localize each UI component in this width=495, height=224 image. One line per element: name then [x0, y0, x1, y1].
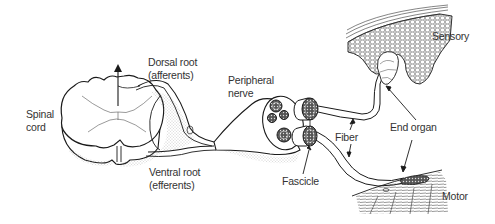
label-fascicle: Fascicle: [282, 175, 319, 188]
peripheral-nerve: [214, 92, 308, 163]
label-fiber: Fiber: [335, 131, 358, 144]
fiber-arrow-down-icon: [347, 152, 351, 157]
label-line: Spinal: [26, 108, 54, 121]
end-organ-motor-arrow-icon: [401, 166, 406, 172]
sensory-skin: [346, 5, 452, 84]
motor-muscle: [352, 170, 448, 214]
label-line: (efferents): [149, 179, 200, 192]
ascending-arrow-icon: [114, 64, 122, 72]
fascicle-arrow-icon: [307, 146, 311, 150]
diagram-canvas: [0, 0, 495, 224]
label-end-organ: End organ: [390, 121, 437, 134]
label-spinal-cord: Spinal cord: [26, 108, 54, 134]
label-line: (afferents): [148, 69, 197, 82]
label-ventral-root: Ventral root (efferents): [149, 166, 200, 192]
label-motor: Motor: [442, 190, 468, 203]
label-line: Peripheral: [228, 74, 274, 87]
label-line: cord: [26, 121, 54, 134]
label-line: nerve: [228, 87, 274, 100]
label-dorsal-root: Dorsal root (afferents): [148, 56, 197, 82]
nerve-anatomy-diagram: Spinal cord Dorsal root (afferents) Vent…: [0, 0, 495, 224]
label-peripheral-nerve: Peripheral nerve: [228, 74, 274, 100]
fiber-arrow-up-icon: [350, 119, 355, 124]
label-sensory: Sensory: [432, 30, 469, 43]
label-line: Dorsal root: [148, 56, 197, 69]
label-line: Ventral root: [149, 166, 200, 179]
